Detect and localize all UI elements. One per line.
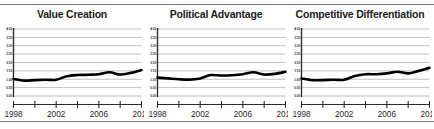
chart-title-value-creation: Value Creation bbox=[0, 8, 144, 20]
y-tick-label-0: 0.00 bbox=[6, 94, 12, 98]
chart-panel-value-creation: Value Creation 0.000.501.001.502.002.503… bbox=[0, 6, 144, 119]
y-tick-label-3: 1.50 bbox=[294, 69, 300, 73]
y-tick-label-4: 2.00 bbox=[150, 61, 156, 65]
y-tick-label-0: 0.00 bbox=[294, 94, 300, 98]
y-tick-label-5: 2.50 bbox=[6, 52, 12, 56]
y-tick-label-4: 2.00 bbox=[294, 61, 300, 65]
y-tick-label-7: 3.50 bbox=[294, 36, 300, 40]
y-tick-label-5: 2.50 bbox=[150, 52, 156, 56]
x-tick-label-2: 2006 bbox=[234, 110, 253, 119]
y-tick-label-8: 4.00 bbox=[6, 27, 12, 31]
top-divider-rule bbox=[0, 4, 434, 5]
y-tick-label-3: 1.50 bbox=[6, 69, 12, 73]
chart-title-political-advantage: Political Advantage bbox=[144, 8, 288, 20]
x-tick-label-2: 2006 bbox=[90, 110, 109, 119]
y-tick-label-0: 0.00 bbox=[150, 94, 156, 98]
y-tick-label-1: 0.50 bbox=[150, 86, 156, 90]
y-tick-label-1: 0.50 bbox=[6, 86, 12, 90]
chart-panel-competitive-differentiation: Competitive Differentiation 0.000.501.00… bbox=[288, 6, 432, 119]
y-tick-label-8: 4.00 bbox=[294, 27, 300, 31]
small-multiples-figure: Value Creation 0.000.501.001.502.002.503… bbox=[0, 0, 434, 129]
x-tick-label-1: 2002 bbox=[191, 110, 210, 119]
x-tick-label-0: 1998 bbox=[292, 110, 311, 119]
y-tick-label-5: 2.50 bbox=[294, 52, 300, 56]
x-tick-label-0: 1998 bbox=[148, 110, 167, 119]
chart-panel-political-advantage: Political Advantage 0.000.501.001.502.00… bbox=[144, 6, 288, 119]
line-chart-svg-1: 0.000.501.001.502.002.503.003.504.001998… bbox=[144, 27, 288, 119]
line-chart-svg-2: 0.000.501.001.502.002.503.003.504.001998… bbox=[288, 27, 432, 119]
y-tick-label-2: 1.00 bbox=[6, 78, 12, 82]
plot-area-competitive-differentiation: 0.000.501.001.502.002.503.003.504.001998… bbox=[288, 27, 432, 119]
plot-area-political-advantage: 0.000.501.001.502.002.503.003.504.001998… bbox=[144, 27, 288, 119]
y-tick-label-6: 3.00 bbox=[294, 44, 300, 48]
x-tick-label-1: 2002 bbox=[335, 110, 354, 119]
y-tick-label-8: 4.00 bbox=[150, 27, 156, 31]
y-tick-label-4: 2.00 bbox=[6, 61, 12, 65]
y-tick-label-6: 3.00 bbox=[6, 44, 12, 48]
y-tick-label-7: 3.50 bbox=[150, 36, 156, 40]
x-tick-label-3: 2010 bbox=[420, 110, 432, 119]
chart-panel-row: Value Creation 0.000.501.001.502.002.503… bbox=[0, 6, 434, 119]
data-series-line bbox=[158, 72, 286, 80]
chart-title-competitive-differentiation: Competitive Differentiation bbox=[288, 8, 432, 20]
plot-area-value-creation: 0.000.501.001.502.002.503.003.504.001998… bbox=[0, 27, 144, 119]
line-chart-svg-0: 0.000.501.001.502.002.503.003.504.001998… bbox=[0, 27, 144, 119]
bottom-divider-rule bbox=[0, 121, 434, 122]
y-tick-label-1: 0.50 bbox=[294, 86, 300, 90]
x-tick-label-2: 2006 bbox=[378, 110, 397, 119]
x-tick-label-3: 2010 bbox=[276, 110, 288, 119]
x-tick-label-0: 1998 bbox=[4, 110, 23, 119]
x-tick-label-1: 2002 bbox=[47, 110, 66, 119]
data-series-line bbox=[302, 68, 430, 80]
y-tick-label-7: 3.50 bbox=[6, 36, 12, 40]
y-tick-label-3: 1.50 bbox=[150, 69, 156, 73]
y-tick-label-6: 3.00 bbox=[150, 44, 156, 48]
y-tick-label-2: 1.00 bbox=[294, 78, 300, 82]
x-tick-label-3: 2010 bbox=[132, 110, 144, 119]
y-tick-label-2: 1.00 bbox=[150, 78, 156, 82]
